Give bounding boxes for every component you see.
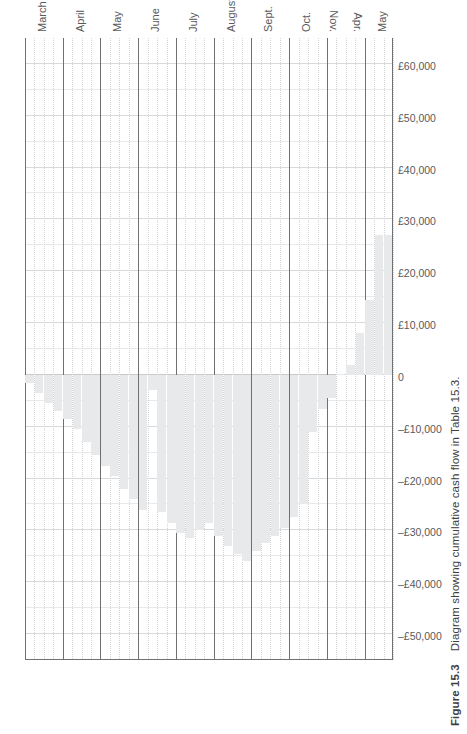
value-axis-tick-label: £20,000 <box>398 267 436 279</box>
value-gridline-minor <box>25 141 393 142</box>
bar <box>25 375 34 383</box>
bar <box>224 375 233 546</box>
bar <box>110 375 119 476</box>
bar <box>195 375 204 531</box>
figure-caption-text: Diagram showing cumulative cash flow in … <box>449 377 461 652</box>
month-divider <box>63 38 64 660</box>
month-divider <box>138 38 139 660</box>
month-label: Sept. <box>262 6 274 32</box>
bar <box>82 375 91 442</box>
week-gridline <box>336 38 337 660</box>
bar <box>346 365 355 375</box>
figure-number: Figure 15.3 <box>449 664 461 726</box>
bar <box>120 375 129 489</box>
value-axis-tick-label: –£30,000 <box>398 526 442 538</box>
month-divider <box>100 38 101 660</box>
value-gridline <box>25 529 393 530</box>
month-label: Apr. <box>352 12 364 32</box>
value-gridline <box>25 218 393 219</box>
month-divider <box>327 38 328 660</box>
bar <box>214 375 223 536</box>
value-axis-tick-label: 0 <box>398 371 404 383</box>
bar <box>327 375 336 398</box>
value-gridline-minor <box>25 89 393 90</box>
week-gridline <box>261 38 262 660</box>
value-gridline-minor <box>25 607 393 608</box>
month-label: Oct. <box>300 12 312 32</box>
bar <box>318 375 327 409</box>
week-gridline <box>299 38 300 660</box>
value-gridline-minor <box>25 244 393 245</box>
bar <box>233 375 242 554</box>
bar <box>157 375 166 512</box>
cash-flow-bar-chart <box>25 38 393 660</box>
week-gridline <box>346 38 347 660</box>
axis-left-rule <box>25 659 393 660</box>
bar <box>129 375 138 499</box>
week-gridline <box>119 38 120 660</box>
value-gridline <box>25 322 393 323</box>
month-label: July <box>187 12 199 32</box>
week-gridline <box>318 38 319 660</box>
value-axis-tick-label: £50,000 <box>398 112 436 124</box>
figure-rotated-stage: £60,000£50,000£40,000£30,000£20,000£10,0… <box>0 0 467 734</box>
value-axis-tick-label: –£50,000 <box>398 630 442 642</box>
week-gridline <box>148 38 149 660</box>
month-divider <box>214 38 215 660</box>
bar <box>252 375 261 551</box>
value-gridline <box>25 63 393 64</box>
bar <box>375 235 384 375</box>
month-label: May <box>376 11 388 32</box>
week-gridline <box>53 38 54 660</box>
month-divider <box>289 38 290 660</box>
bar <box>242 375 251 562</box>
bar <box>54 375 63 411</box>
month-label: March <box>36 1 48 32</box>
week-gridline <box>308 38 309 660</box>
month-label: August <box>225 0 237 32</box>
bar <box>176 375 185 533</box>
week-gridline <box>82 38 83 660</box>
bar <box>365 300 374 375</box>
bar <box>290 375 299 518</box>
value-gridline-minor <box>25 296 393 297</box>
week-gridline <box>195 38 196 660</box>
week-gridline <box>157 38 158 660</box>
bar <box>337 374 346 375</box>
value-axis-tick-label: £40,000 <box>398 164 436 176</box>
bar <box>261 375 270 544</box>
week-gridline <box>270 38 271 660</box>
value-axis-tick-label: £60,000 <box>398 60 436 72</box>
value-gridline <box>25 633 393 634</box>
bar <box>280 375 289 528</box>
week-gridline <box>280 38 281 660</box>
week-gridline <box>91 38 92 660</box>
bar <box>63 375 72 419</box>
week-gridline <box>233 38 234 660</box>
value-gridline <box>25 115 393 116</box>
value-gridline <box>25 167 393 168</box>
bar <box>356 333 365 375</box>
value-gridline <box>25 270 393 271</box>
month-divider <box>25 38 26 660</box>
week-gridline <box>167 38 168 660</box>
value-axis-tick-label: –£40,000 <box>398 578 442 590</box>
month-divider <box>251 38 252 660</box>
week-gridline <box>72 38 73 660</box>
week-gridline <box>223 38 224 660</box>
axis-bottom-rule <box>392 38 393 660</box>
week-gridline <box>242 38 243 660</box>
value-axis-tick-label: –£10,000 <box>398 423 442 435</box>
bar <box>73 375 82 429</box>
week-gridline <box>393 38 394 660</box>
bar <box>148 375 157 391</box>
value-gridline <box>25 581 393 582</box>
bar <box>271 375 280 536</box>
month-divider <box>176 38 177 660</box>
month-label: May <box>111 11 123 32</box>
value-gridline-minor <box>25 348 393 349</box>
month-label: April <box>74 10 86 32</box>
bar <box>91 375 100 455</box>
bar <box>205 375 214 523</box>
week-gridline <box>185 38 186 660</box>
